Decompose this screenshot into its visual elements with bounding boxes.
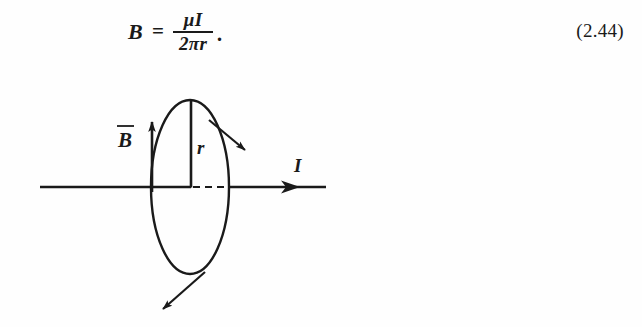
tangent-arrow-lower-left [163, 272, 205, 309]
fraction-numerator: μI [181, 10, 205, 31]
equation-lhs-B: B [128, 19, 152, 45]
radius-label: r [197, 137, 205, 158]
equation-expression: B = μI 2πr · [128, 10, 223, 54]
equation-row: B = μI 2πr · (2.44) [0, 4, 642, 66]
figure-page: B = μI 2πr · (2.44) [0, 0, 642, 327]
current-wire [40, 180, 326, 193]
fraction-denominator: 2πr [176, 33, 210, 54]
magnetic-field-diagram: B r I [0, 76, 420, 327]
b-field-label: B [117, 128, 132, 152]
equation-fraction: μI 2πr [173, 10, 213, 54]
equation-trailing-punctuation: · [213, 27, 223, 54]
equation-equals-sign: = [152, 19, 173, 44]
tangent-arrow-upper-right [209, 120, 245, 150]
b-field-label-group: B [117, 126, 134, 152]
current-label: I [293, 155, 302, 176]
equation-number: (2.44) [576, 20, 624, 42]
